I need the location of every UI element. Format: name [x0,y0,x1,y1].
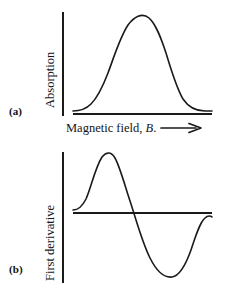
x-axis-caption-row: Magnetic field, B. [66,120,224,136]
x-axis-caption-symbol: B [146,121,154,135]
first-derivative-curve [73,153,212,277]
panel-label-a: (a) [9,106,22,117]
panel-label-b: (b) [9,264,23,275]
y-axis-caption-first-derivative: First derivative [44,205,57,281]
right-arrow-icon [160,122,204,134]
x-axis-caption-text: Magnetic field, B. [66,122,156,135]
y-axis-line-a [62,12,64,116]
figure-absorption-and-first-derivative: (a) Absorption Magnetic field, B. (b) Fi… [0,0,227,287]
y-axis-line-b [62,152,64,283]
absorption-curve-plot [70,8,216,116]
y-axis-caption-absorption: Absorption [44,52,57,108]
x-axis-caption-suffix: . [153,121,156,135]
absorption-curve [73,15,212,111]
first-derivative-curve-plot [70,150,216,285]
x-axis-caption-words: Magnetic field, [66,121,146,135]
